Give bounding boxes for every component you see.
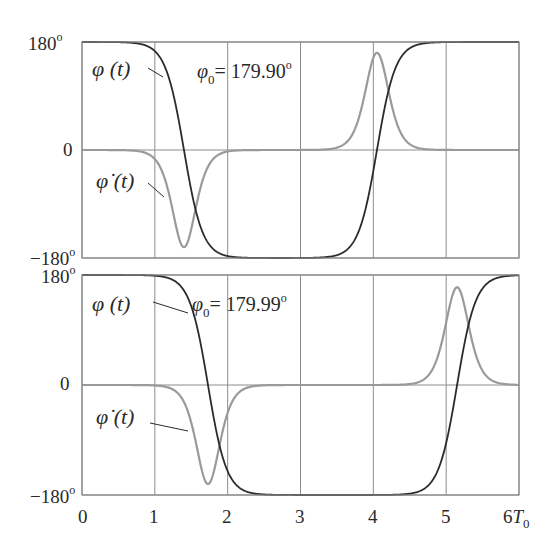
bottom-y-tick-0: 0: [60, 373, 70, 394]
top-panel-plot: [82, 42, 519, 258]
top-phi-label: φ (t): [92, 56, 130, 81]
top-phi0-annotation: φ0= 179.90o: [197, 58, 292, 87]
bottom-phi0-value: = 179.99: [210, 293, 281, 315]
x-tick-1: 1: [149, 506, 159, 527]
bottom-panel-plot: [82, 275, 519, 495]
bottom-phi-label: φ (t): [92, 291, 130, 316]
top-y-tick-0: 0: [63, 139, 73, 160]
x-tick-6-T0: 6T0: [503, 506, 530, 531]
bottom-phi-leader-line: [153, 302, 188, 313]
bottom-phidot-label: φ̇ (t): [96, 404, 134, 429]
x-tick-4: 4: [368, 506, 378, 527]
top-phidot-leader-line: [148, 183, 164, 197]
x-tick-3: 3: [295, 506, 305, 527]
x-tick-0: 0: [78, 506, 88, 527]
x-tick-2: 2: [222, 506, 232, 527]
top-phi0-value: = 179.90: [215, 60, 286, 82]
bottom-phidot-leader-line: [150, 423, 188, 431]
x-tick-5: 5: [441, 506, 451, 527]
bottom-phi0-annotation: φ0= 179.99o: [192, 291, 287, 320]
phase-portrait-figure: 180o 0 −180o 180o 0 −180o 0 1 2 3 4 5 6T…: [0, 0, 559, 560]
bottom-y-tick-neg180: −180o: [30, 483, 75, 507]
bottom-y-tick-180: 180o: [41, 263, 76, 287]
top-phidot-label: φ̇ (t): [96, 168, 134, 193]
top-phi-leader-line: [148, 68, 163, 77]
top-y-tick-180: 180o: [28, 30, 63, 54]
